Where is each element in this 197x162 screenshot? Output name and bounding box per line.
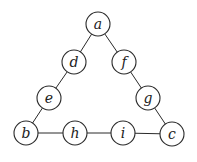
node-g: g: [136, 86, 160, 110]
node-a: a: [86, 12, 110, 36]
node-c: c: [160, 122, 184, 146]
node-d: d: [62, 50, 86, 74]
node-f: f: [112, 50, 136, 74]
node-label: a: [94, 16, 102, 32]
node-label: b: [22, 125, 31, 141]
node-h: h: [63, 121, 87, 145]
node-i: i: [111, 121, 135, 145]
node-b: b: [14, 121, 38, 145]
node-label: c: [168, 126, 176, 142]
node-label: e: [45, 90, 53, 106]
node-label: g: [144, 90, 153, 106]
node-label: d: [70, 54, 79, 70]
node-label: i: [121, 125, 125, 141]
graph-diagram: adfegbhic: [0, 0, 197, 162]
node-label: h: [70, 125, 79, 141]
graph-edges: [26, 24, 172, 134]
node-e: e: [37, 86, 61, 110]
graph-nodes: adfegbhic: [14, 12, 184, 146]
